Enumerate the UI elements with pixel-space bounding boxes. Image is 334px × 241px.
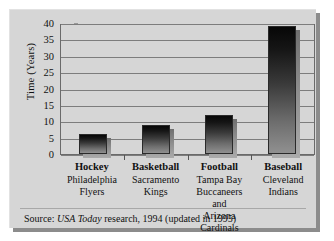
bar-basketball[interactable] [142,125,170,154]
y-tick-label: 0 [28,150,54,161]
plot-region: Time (Years) 4035302520151050 [10,10,316,160]
category-team-line: Kings [125,186,187,198]
bar-baseball[interactable] [268,26,296,154]
category-team-line: Sacramento [125,174,187,186]
bar-slot [61,25,124,154]
category-team-line: Tampa Bay [189,174,251,186]
bar-fill [79,134,107,154]
y-tick-label: 20 [28,84,54,95]
source-divider [20,208,306,209]
y-tick-label: 10 [28,117,54,128]
x-tick-mark [251,155,252,160]
category-label-baseball: BaseballClevelandIndians [251,161,315,234]
bar-fill [268,26,296,154]
source-prefix: Source: [24,213,57,224]
x-tick-mark [188,155,189,160]
bar-fill [142,125,170,154]
y-tick-label: 25 [28,68,54,79]
chart-figure: Time (Years) 4035302520151050 HockeyPhil… [9,9,316,228]
bar-slot [251,25,314,154]
bar-slot [188,25,251,154]
y-tick-label: 5 [28,133,54,144]
category-sport-name: Basketball [125,161,187,174]
category-team-line: Flyers [61,186,123,198]
category-sport-name: Football [189,161,251,174]
y-tick-label: 30 [28,52,54,63]
source-publication: USA Today [57,213,102,224]
x-tick-mark [124,155,125,160]
bar-series [61,25,314,154]
bar-slot [124,25,187,154]
y-axis-tick-labels: 4035302520151050 [28,24,54,155]
bar-football[interactable] [205,115,233,154]
y-tick-label: 15 [28,101,54,112]
source-note: Source: USA Today research, 1994 (update… [24,213,236,224]
source-suffix: research, 1994 (updated in 1995) [102,213,236,224]
category-team-line: Buccaneers and [189,186,251,210]
category-sport-name: Baseball [252,161,314,174]
category-team-line: Indians [252,186,314,198]
category-team-line: Philadelphia [61,174,123,186]
category-sport-name: Hockey [61,161,123,174]
y-tick-label: 40 [28,19,54,30]
category-team-line: Cleveland [252,174,314,186]
bar-hockey[interactable] [79,134,107,154]
plot-area [60,24,315,155]
y-tick-label: 35 [28,35,54,46]
bar-fill [205,115,233,154]
